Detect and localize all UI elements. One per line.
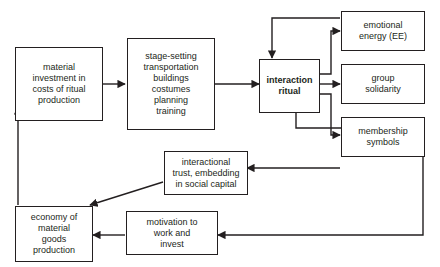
edge-interactional-trust-to-economy: [90, 182, 163, 205]
node-emotional-energy[interactable]: emotional energy (EE): [341, 11, 425, 51]
node-material-investment[interactable]: material investment in costs of ritual p…: [15, 47, 103, 121]
diagram-canvas: material investment in costs of ritual p…: [0, 0, 440, 267]
node-membership-symbols[interactable]: membership symbols: [341, 117, 425, 157]
node-economy-material-goods[interactable]: economy of material goods production: [15, 206, 93, 262]
edge-interaction-ritual-to-emotional-energy: [319, 31, 340, 74]
node-interactional-trust[interactable]: interactional trust, embedding in social…: [164, 151, 248, 195]
edge-interaction-ritual-to-membership-symbols: [319, 94, 340, 135]
node-group-solidarity[interactable]: group solidarity: [341, 64, 425, 104]
node-stage-setting[interactable]: stage-setting transportation buildings c…: [127, 38, 215, 130]
node-interaction-ritual[interactable]: interaction ritual: [259, 59, 320, 113]
edge-emotional-energy-to-interaction-ritual: [272, 18, 340, 58]
node-motivation-to-work[interactable]: motivation to work and invest: [126, 211, 218, 255]
